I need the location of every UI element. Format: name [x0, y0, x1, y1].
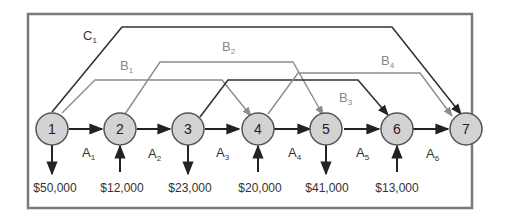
cash-flow-label-2: $12,000 [100, 181, 144, 195]
node-2-label: 2 [116, 121, 124, 137]
node-2: 2 [104, 113, 136, 145]
node-4: 4 [242, 113, 274, 145]
node-5: 5 [310, 113, 342, 145]
node-1-label: 1 [48, 121, 56, 137]
node-1: 1 [36, 113, 68, 145]
node-3-label: 3 [184, 121, 192, 137]
node-3: 3 [172, 113, 204, 145]
network-diagram: 1 2 3 4 5 6 7 $50,000 $12,000 $23,000 $2… [0, 0, 514, 222]
cash-flow-label-4: $20,000 [238, 181, 282, 195]
cash-flow-label-6: $13,000 [375, 181, 419, 195]
node-7: 7 [450, 113, 482, 145]
node-6-label: 6 [393, 121, 401, 137]
node-7-label: 7 [462, 121, 470, 137]
cash-flow-label-3: $23,000 [168, 181, 212, 195]
cash-flow-label-5: $41,000 [305, 181, 349, 195]
cash-flow-label-1: $50,000 [33, 181, 77, 195]
node-5-label: 5 [322, 121, 330, 137]
node-4-label: 4 [254, 121, 262, 137]
node-6: 6 [381, 113, 413, 145]
